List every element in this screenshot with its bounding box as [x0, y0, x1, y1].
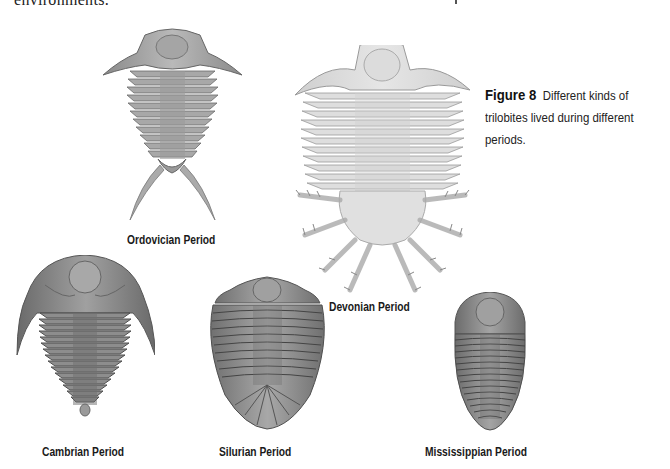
caption-mississippian: Mississippian Period [425, 445, 527, 459]
figure-caption-line-3: periods. [485, 132, 526, 147]
trilobite-silurian-illustration [205, 275, 330, 430]
trilobite-mississippian-illustration [450, 292, 530, 432]
caption-cambrian: Cambrian Period [42, 445, 124, 459]
trilobite-cambrian-illustration [15, 255, 155, 435]
figure-caption-line-2: trilobites lived during different [485, 110, 634, 125]
caption-devonian: Devonian Period [329, 300, 410, 314]
caption-ordovician: Ordovician Period [127, 233, 215, 247]
page-mark [455, 0, 457, 4]
trilobite-devonian-illustration [285, 45, 480, 295]
figure-caption: Figure 8 Different kinds of trilobites l… [485, 84, 648, 151]
trilobite-ordovician-illustration [100, 25, 245, 225]
caption-silurian: Silurian Period [219, 445, 291, 459]
partial-body-text: environments. [14, 0, 109, 9]
figure-number: Figure 8 [485, 86, 536, 103]
figure-caption-line-1: Different kinds of [543, 88, 629, 103]
